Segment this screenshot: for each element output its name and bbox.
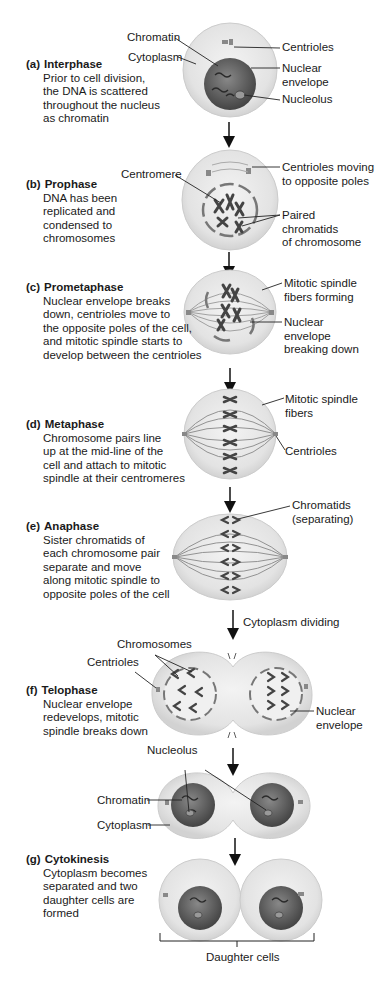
label-cytoplasm-cytokinesis: Cytoplasm [97, 819, 151, 833]
label-centrioles-metaphase: Centrioles [285, 445, 337, 459]
anaphase-cell [172, 514, 288, 600]
phase-letter: (d) [26, 418, 41, 430]
phase-description: Chromosome pairs line up at the mid-line… [26, 432, 185, 486]
phase-title: Prometaphase [44, 281, 123, 293]
label-nucleolus: Nucleolus [282, 93, 333, 107]
label-centrioles: Centrioles [282, 41, 334, 55]
phase-letter: (e) [26, 520, 40, 532]
phase-title: Interphase [44, 58, 102, 70]
prophase-cell [182, 150, 278, 250]
label-nuclear-envelope-telophase: Nuclear envelope [316, 705, 363, 732]
phase-telophase: (f)Telophase Nuclear envelope redevelops… [26, 684, 148, 738]
label-chromatin-cytokinesis: Chromatin [97, 794, 150, 808]
cytokinesis-cells-joined [158, 773, 310, 839]
phase-letter: (f) [26, 684, 38, 696]
phase-cytokinesis: (g)Cytokinesis Cytoplasm becomes separat… [26, 853, 147, 921]
phase-description: Sister chromatids of each chromosome pai… [26, 534, 170, 602]
label-paired-chromatids: Paired chromatids of chromosome [282, 209, 361, 250]
label-centrioles-moving: Centrioles moving to opposite poles [282, 161, 374, 188]
phase-prophase: (b)Prophase DNA has been replicated and … [26, 178, 117, 246]
daughter-cells [159, 859, 322, 941]
anaphase-leader-line [238, 506, 290, 519]
phase-description: DNA has been replicated and condensed to… [26, 192, 117, 246]
label-cytoplasm-dividing: Cytoplasm dividing [243, 616, 340, 630]
phase-letter: (g) [26, 853, 41, 865]
label-chromatin: Chromatin [127, 31, 180, 45]
label-envelope-breaking: Nuclear envelope breaking down [284, 316, 359, 357]
phase-letter: (b) [26, 178, 41, 190]
interphase-cell [183, 23, 277, 117]
phase-title: Metaphase [45, 418, 104, 430]
phase-letter: (c) [26, 281, 40, 293]
label-spindle-forming: Mitotic spindle fibers forming [284, 277, 357, 304]
phase-prometaphase: (c)Prometaphase Nuclear envelope breaks … [26, 281, 202, 362]
label-centromere: Centromere [121, 168, 182, 182]
phase-description: Cytoplasm becomes separated and two daug… [26, 867, 147, 921]
label-spindle-fibers: Mitotic spindle fibers [285, 393, 358, 420]
label-nuclear-envelope: Nuclear envelope [282, 62, 329, 89]
phase-title: Cytokinesis [45, 853, 110, 865]
metaphase-cell [182, 389, 278, 479]
phase-description: Nuclear envelope breaks down, centrioles… [26, 295, 202, 363]
label-centrioles-telophase: Centrioles [87, 656, 139, 670]
label-nucleolus-cytokinesis: Nucleolus [147, 744, 198, 758]
phase-metaphase: (d)Metaphase Chromosome pairs line up at… [26, 418, 185, 486]
phase-interphase: (a)Interphase Prior to cell division, th… [26, 58, 160, 126]
mitosis-diagram-art [0, 0, 381, 994]
label-daughter-cells: Daughter cells [206, 951, 280, 965]
label-cytoplasm: Cytoplasm [128, 51, 182, 65]
phase-title: Telophase [42, 684, 98, 696]
phase-description: Nuclear envelope redevelops, mitotic spi… [26, 698, 148, 739]
phase-description: Prior to cell division, the DNA is scatt… [26, 72, 160, 126]
phase-letter: (a) [26, 58, 40, 70]
phase-title: Anaphase [44, 520, 99, 532]
phase-anaphase: (e)Anaphase Sister chromatids of each ch… [26, 520, 170, 601]
label-chromatids-separating: Chromatids (separating) [292, 499, 353, 526]
phase-title: Prophase [45, 178, 97, 190]
label-chromosomes: Chromosomes [117, 638, 192, 652]
